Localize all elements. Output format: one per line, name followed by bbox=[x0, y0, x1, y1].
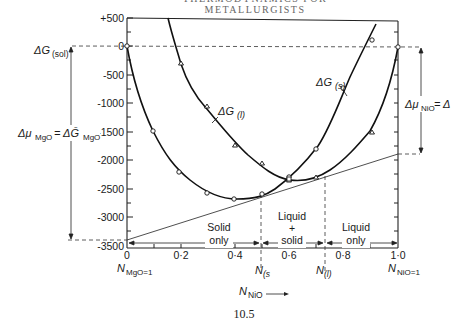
svg-text:(s: (s bbox=[263, 269, 271, 279]
y-tick: -1000 bbox=[97, 97, 124, 109]
mu-mgo-arrow bbox=[69, 47, 73, 239]
svg-text:= Δ: = Δ bbox=[434, 98, 450, 110]
svg-text:(s): (s) bbox=[335, 81, 346, 91]
svg-text:N: N bbox=[239, 285, 247, 297]
n-s-label: N (s bbox=[255, 264, 271, 279]
x-tick-labels: 0 0·2 0·4 0·6 0·8 1·0 bbox=[124, 249, 406, 261]
svg-text:NiO: NiO bbox=[248, 290, 263, 300]
region-liquid-solid: Liquid bbox=[278, 210, 306, 222]
x-axis-title: N NiO bbox=[239, 285, 289, 300]
intersection-marker bbox=[287, 177, 291, 181]
x-right-end-label: N NiO=1 bbox=[388, 262, 420, 277]
x-tick: 1·0 bbox=[390, 249, 405, 261]
svg-text:(sol): (sol) bbox=[52, 49, 69, 59]
svg-text:Δμ: Δμ bbox=[404, 98, 418, 110]
y-tick: -2000 bbox=[97, 154, 124, 166]
svg-text:ΔG: ΔG bbox=[315, 76, 332, 88]
x-tick: 0 bbox=[124, 249, 130, 261]
liquid-curve bbox=[168, 18, 398, 181]
svg-text:NiO: NiO bbox=[421, 104, 435, 113]
svg-text:MgO: MgO bbox=[35, 133, 52, 142]
free-energy-diagram: +500 0 -500 -1000 -1500 -2000 -2500 -300… bbox=[0, 0, 455, 333]
y-tick: -1500 bbox=[97, 126, 124, 138]
y-tick: +500 bbox=[100, 12, 124, 24]
solid-curve-label: ΔG (s) bbox=[315, 76, 347, 96]
svg-text:MgO=1: MgO=1 bbox=[126, 268, 153, 277]
solid-markers bbox=[125, 38, 400, 201]
y-tick: -2500 bbox=[97, 183, 124, 195]
svg-text:NiO=1: NiO=1 bbox=[397, 268, 420, 277]
svg-text:ΔG: ΔG bbox=[217, 105, 234, 117]
svg-text:ΔG: ΔG bbox=[33, 44, 50, 56]
region-liquid-solid: + bbox=[289, 222, 295, 234]
svg-text:N: N bbox=[316, 264, 324, 276]
arrow-right-icon bbox=[284, 292, 289, 296]
svg-text:N: N bbox=[117, 262, 125, 274]
x-tick: 0·8 bbox=[335, 249, 350, 261]
svg-text:N: N bbox=[388, 262, 396, 274]
y-tick: -3500 bbox=[97, 240, 124, 252]
x-tick: 0·4 bbox=[227, 249, 242, 261]
x-left-end-label: N MgO=1 bbox=[117, 262, 153, 277]
svg-text:(l): (l) bbox=[324, 269, 332, 279]
region-liquid-only: Liquid bbox=[342, 221, 370, 233]
region-liquid-only: only bbox=[346, 234, 366, 246]
svg-text:(l): (l) bbox=[237, 110, 245, 120]
figure-number: 10.5 bbox=[234, 307, 255, 321]
y-tick-labels: +500 0 -500 -1000 -1500 -2000 -2500 -300… bbox=[97, 12, 124, 252]
x-tick: 0·2 bbox=[173, 249, 188, 261]
svg-text:Δμ: Δμ bbox=[17, 127, 31, 139]
y-tick: -500 bbox=[103, 69, 124, 81]
y-ticks bbox=[127, 18, 398, 248]
plot-frame bbox=[127, 18, 398, 248]
liquid-markers bbox=[179, 61, 375, 182]
y-tick: -3000 bbox=[97, 211, 124, 223]
dg-sol-label: ΔG (sol) bbox=[33, 44, 69, 59]
region-solid-only: only bbox=[209, 234, 229, 246]
x-tick: 0·6 bbox=[281, 249, 296, 261]
svg-text:MgO: MgO bbox=[83, 133, 100, 142]
region-liquid-solid: solid bbox=[281, 234, 303, 246]
svg-text:= ΔḠ: = ΔḠ bbox=[54, 127, 79, 139]
n-l-label: N (l) bbox=[316, 264, 332, 279]
svg-text:N: N bbox=[255, 264, 263, 276]
region-solid-only: Solid bbox=[207, 221, 231, 233]
